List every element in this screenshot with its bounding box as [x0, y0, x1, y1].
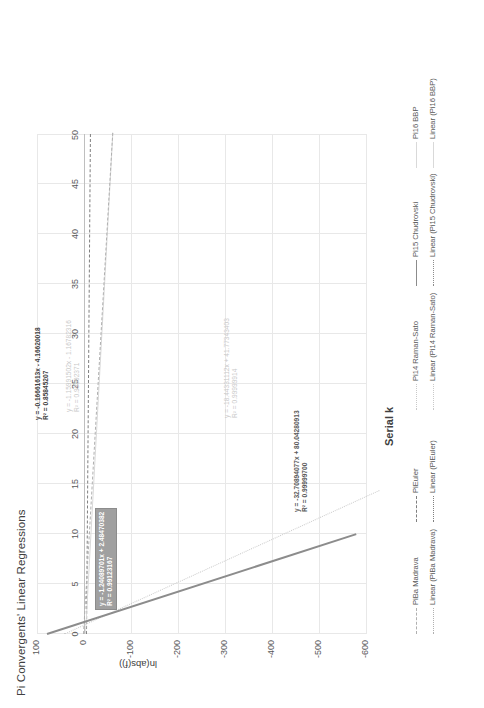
- equation-piba-madrava: y = -1.24089701x + 2.48470382 R² = 0.991…: [95, 508, 117, 610]
- equation-pi14-raman-sato: y = -18.44331112x + 41.77343403 R² = 0.9…: [223, 318, 239, 418]
- x-tick-label: 10: [70, 519, 80, 549]
- x-tick-label: 5: [70, 569, 80, 599]
- gridline-v: [37, 233, 367, 234]
- equation-pi15-chudrovski: y = -32.70894077x + 80.04280913 R² = 0.9…: [293, 410, 309, 512]
- legend-swatch-dash-icon: [416, 496, 417, 522]
- legend-swatch-dot-icon: [433, 608, 434, 634]
- y-tick-label: 100: [31, 640, 41, 680]
- gridline-h: [178, 134, 179, 634]
- series-line-pi15-chudrovski: [47, 533, 357, 635]
- y-tick-label: -200: [172, 640, 182, 680]
- legend-label: PiBa Madrava: [411, 557, 420, 605]
- gridline-v: [37, 183, 367, 184]
- gridline-h: [366, 134, 367, 634]
- legend-label: Pi15 Chudrovski: [411, 202, 420, 257]
- chart-title: Pi Convergents' Linear Regressions: [15, 276, 27, 696]
- gridline-v: [37, 283, 367, 284]
- legend-item-pi15-chudrovski[interactable]: Pi15 Chudrovski: [411, 202, 420, 286]
- legend-label: PiEuler: [411, 469, 420, 493]
- chart-legend: PiBa Madrava PiEuler Pi14 Raman-Sato Pi1…: [411, 74, 459, 634]
- gridline-v: [37, 433, 367, 434]
- x-axis-zero-line: [84, 134, 85, 634]
- legend-label: Linear (Pi14 Raman-Sato): [428, 293, 437, 381]
- legend-item-pi14-raman-sato[interactable]: Pi14 Raman-Sato: [411, 321, 420, 410]
- legend-item-linear-pi14-raman-sato[interactable]: Linear (Pi14 Raman-Sato): [428, 293, 437, 410]
- x-tick-label: 20: [70, 419, 80, 449]
- legend-swatch-solid-icon: [416, 260, 417, 286]
- rotated-figure-wrapper: Pi Convergents' Linear Regressions: [11, 12, 473, 696]
- y-axis-label: ln(abs(f)): [119, 659, 157, 670]
- x-axis-label: Serial k: [383, 407, 395, 446]
- legend-item-linear-piba-madrava[interactable]: Linear (PiBa Madrava): [428, 529, 437, 634]
- legend-swatch-dot-icon: [433, 260, 434, 286]
- legend-label: Pi16 BBP: [411, 106, 420, 139]
- legend-swatch-solid-icon: [433, 142, 434, 168]
- screenshot-page: Pi Convergents' Linear Regressions: [0, 0, 484, 708]
- gridline-h: [319, 134, 320, 634]
- equation-pi16-bbp: y = -1.15991502x - 1.16782316 R² = 0.999…: [65, 320, 81, 412]
- x-tick-label: 35: [70, 269, 80, 299]
- legend-label: Linear (PiEuler): [428, 440, 437, 493]
- x-tick-label: 50: [70, 120, 80, 150]
- legend-label: Pi14 Raman-Sato: [411, 321, 420, 381]
- legend-swatch-dash-icon: [416, 608, 417, 634]
- legend-swatch-dot-icon: [416, 384, 417, 410]
- legend-swatch-solid-icon: [416, 142, 417, 168]
- x-tick-label: 45: [70, 169, 80, 199]
- gridline-v: [37, 333, 367, 334]
- legend-item-pieuler[interactable]: PiEuler: [411, 469, 420, 522]
- legend-label: Linear (PiBa Madrava): [428, 529, 437, 605]
- legend-item-linear-pi15-chudrovski[interactable]: Linear (Pi15 Chudrovski): [428, 173, 437, 286]
- legend-item-pi16-bbp[interactable]: Pi16 BBP: [411, 106, 420, 168]
- legend-item-linear-pieuler[interactable]: Linear (PiEuler): [428, 440, 437, 522]
- legend-swatch-dot-icon: [433, 496, 434, 522]
- plot-area: 100 0 -100 -200 -300 -400 -500 -600 0 5 …: [37, 134, 367, 634]
- legend-item-linear-pi16-bbp[interactable]: Linear (Pi16 BBP): [428, 78, 437, 168]
- y-tick-label: -600: [360, 640, 370, 680]
- equation-pieuler: y = -0.16661613x - 4.16620018 R² = 0.858…: [34, 327, 50, 420]
- x-tick-label: 15: [70, 469, 80, 499]
- chart-figure: Pi Convergents' Linear Regressions: [11, 12, 473, 696]
- gridline-v: [37, 383, 367, 384]
- legend-swatch-dot-icon: [433, 384, 434, 410]
- y-tick-label: -400: [266, 640, 276, 680]
- y-tick-label: -500: [313, 640, 323, 680]
- x-tick-label: 40: [70, 219, 80, 249]
- gridline-v: [37, 134, 367, 135]
- legend-label: Linear (Pi16 BBP): [428, 78, 437, 139]
- gridline-h: [131, 134, 132, 634]
- y-tick-label: -300: [219, 640, 229, 680]
- legend-item-piba-madrava[interactable]: PiBa Madrava: [411, 557, 420, 634]
- legend-label: Linear (Pi15 Chudrovski): [428, 173, 437, 257]
